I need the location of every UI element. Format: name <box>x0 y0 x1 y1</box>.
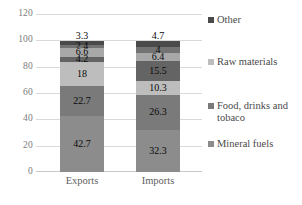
y-tick-0: 0 <box>28 167 33 177</box>
segment-label-exports-mineral-fuels: 42.7 <box>60 139 104 149</box>
legend-item-mineral-fuels[interactable]: Mineral fuels <box>208 138 302 150</box>
segment-label-imports-mineral-fuels: 32.3 <box>136 146 180 156</box>
bar-exports[interactable]: 3.3 2.4 6.6 4.2 18 22.7 42.7 <box>60 41 104 172</box>
segment-label-imports-raw-materials: 10.3 <box>136 83 180 93</box>
y-tick-60: 60 <box>23 88 33 98</box>
segment-label-exports-other: 3.3 <box>60 31 104 41</box>
stacked-column-chart: 120 100 80 60 40 20 0 3.3 2.4 6.6 4.2 <box>0 0 302 205</box>
y-tick-40: 40 <box>23 115 33 125</box>
legend-label-raw-materials: Raw materials <box>217 56 277 68</box>
segment-label-exports-raw-materials: 18 <box>60 69 104 79</box>
y-tick-20: 20 <box>23 141 33 151</box>
legend-swatch-food-icon <box>208 103 214 109</box>
segment-label-imports-food: 26.3 <box>136 107 180 117</box>
legend-swatch-other-icon <box>208 17 214 23</box>
x-axis-labels: Exports Imports <box>36 176 202 192</box>
y-tick-80: 80 <box>23 62 33 72</box>
gridline-120 <box>36 14 202 15</box>
legend-label-mineral-fuels: Mineral fuels <box>217 138 273 150</box>
segment-exports-food[interactable]: 22.7 <box>60 86 104 116</box>
y-tick-100: 100 <box>18 36 33 46</box>
legend: Other Raw materials Food, drinks and tob… <box>208 8 302 168</box>
x-label-imports: Imports <box>123 176 193 187</box>
segment-label-exports-food: 22.7 <box>60 96 104 106</box>
plot-area: 3.3 2.4 6.6 4.2 18 22.7 42.7 4 <box>36 14 202 172</box>
legend-swatch-mineral-fuels-icon <box>208 141 214 147</box>
x-label-exports: Exports <box>47 176 117 187</box>
segment-imports-food[interactable]: 26.3 <box>136 95 180 130</box>
legend-item-food[interactable]: Food, drinks and tobaco <box>208 100 302 123</box>
legend-label-other: Other <box>217 14 241 26</box>
segment-label-imports-4: 15.5 <box>136 66 180 76</box>
y-tick-120: 120 <box>18 9 33 19</box>
legend-item-other[interactable]: Other <box>208 14 302 26</box>
segment-exports-raw-materials[interactable]: 18 <box>60 62 104 86</box>
segment-exports-mineral-fuels[interactable]: 42.7 <box>60 116 104 172</box>
segment-imports-4[interactable]: 15.5 <box>136 61 180 81</box>
segment-imports-mineral-fuels[interactable]: 32.3 <box>136 130 180 173</box>
segment-exports-5[interactable]: 6.6 <box>60 48 104 57</box>
legend-label-food: Food, drinks and tobaco <box>217 100 288 123</box>
segment-imports-5[interactable]: 6.4 <box>136 53 180 61</box>
bar-imports[interactable]: 4.7 4 6.4 15.5 10.3 26.3 32.3 <box>136 41 180 172</box>
y-axis-labels: 120 100 80 60 40 20 0 <box>0 14 33 172</box>
segment-imports-raw-materials[interactable]: 10.3 <box>136 81 180 95</box>
legend-item-raw-materials[interactable]: Raw materials <box>208 56 302 68</box>
legend-swatch-raw-materials-icon <box>208 59 214 65</box>
